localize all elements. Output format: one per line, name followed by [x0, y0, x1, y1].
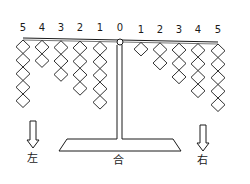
right-stack-3 — [172, 43, 186, 83]
weight-stacks — [16, 40, 225, 112]
pivot-icon — [117, 39, 123, 45]
weight-diamond-icon — [211, 44, 225, 58]
weight-diamond-icon — [172, 57, 186, 70]
left-stack-3 — [54, 41, 68, 82]
weight-diamond-icon — [93, 42, 107, 56]
weight-diamond-icon — [93, 69, 107, 83]
weight-diamond-icon — [211, 71, 225, 85]
weight-diamond-icon — [191, 44, 205, 58]
position-labels: 54321012345 — [20, 22, 221, 35]
left-position-label-2: 2 — [77, 22, 83, 33]
right-stack-5 — [211, 44, 225, 112]
weight-diamond-icon — [172, 43, 186, 57]
left-stack-5 — [16, 40, 30, 108]
weight-diamond-icon — [73, 68, 87, 82]
right-position-label-2: 2 — [157, 24, 163, 35]
weight-diamond-icon — [16, 81, 30, 95]
weight-diamond-icon — [73, 82, 87, 96]
left-stack-2 — [73, 41, 87, 95]
weight-diamond-icon — [93, 55, 107, 69]
weight-diamond-icon — [16, 67, 30, 81]
weight-diamond-icon — [73, 55, 87, 68]
weight-diamond-icon — [54, 41, 68, 55]
left-stack-1 — [93, 42, 107, 110]
right-position-label-5: 5 — [215, 24, 221, 35]
right-position-label-4: 4 — [195, 24, 201, 35]
weight-diamond-icon — [54, 54, 68, 68]
right-position-label-3: 3 — [176, 24, 182, 35]
weight-diamond-icon — [73, 41, 87, 55]
left-position-label-1: 1 — [97, 22, 103, 33]
right-label: 右 — [197, 155, 208, 166]
weight-diamond-icon — [16, 40, 30, 54]
right-down-arrow-icon — [197, 125, 209, 151]
weight-diamond-icon — [153, 56, 167, 70]
left-position-label-5: 5 — [20, 22, 26, 33]
balance-diagram: 54321012345 左 合 右 — [0, 0, 250, 184]
weight-diamond-icon — [35, 54, 49, 67]
right-stack-1 — [134, 42, 148, 56]
weight-diamond-icon — [54, 68, 68, 82]
center-position-label: 0 — [117, 22, 123, 33]
left-label: 左 — [27, 153, 38, 164]
right-position-label-1: 1 — [138, 24, 144, 35]
weight-diamond-icon — [134, 42, 148, 56]
weight-diamond-icon — [211, 98, 225, 112]
right-stack-4 — [191, 44, 205, 98]
weight-diamond-icon — [172, 70, 186, 84]
weight-diamond-icon — [93, 82, 107, 96]
weight-diamond-icon — [16, 54, 30, 68]
weight-diamond-icon — [93, 96, 107, 110]
weight-diamond-icon — [35, 40, 49, 54]
stand-base — [59, 139, 181, 151]
weight-diamond-icon — [191, 57, 205, 71]
weight-diamond-icon — [191, 71, 205, 85]
right-stack-2 — [153, 43, 167, 70]
left-position-label-3: 3 — [58, 22, 64, 33]
center-label: 合 — [113, 155, 124, 166]
weight-diamond-icon — [211, 85, 225, 99]
weight-diamond-icon — [16, 94, 30, 108]
left-position-label-4: 4 — [39, 22, 45, 33]
weight-diamond-icon — [211, 58, 225, 72]
left-stack-4 — [35, 40, 49, 67]
left-down-arrow-icon — [27, 121, 39, 148]
weight-diamond-icon — [191, 84, 205, 98]
weight-diamond-icon — [153, 43, 167, 57]
